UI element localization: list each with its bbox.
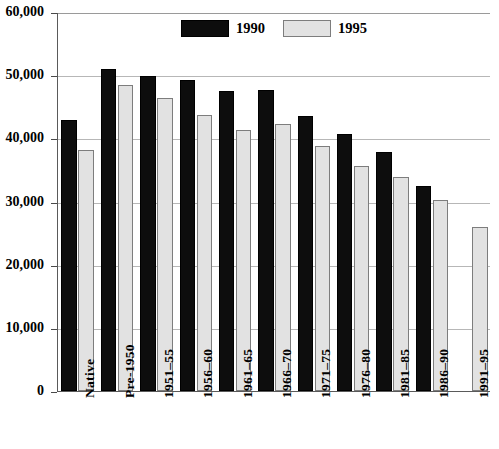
bar-1990-Native [61,120,77,391]
bar-1990-198185 [376,152,392,391]
bar-chart: 60,00050,00040,00030,00020,00010,0000 Na… [0,0,499,449]
bar-group [140,13,173,391]
x-axis-tick-label: 1961–65 [240,349,256,398]
x-axis-tick-label: 1991–95 [476,349,492,398]
bar-1990-197680 [337,134,353,391]
x-axis-tick-label: 1986–90 [436,349,452,398]
legend-item-1995: 1995 [283,20,367,37]
y-axis-tick-label: 40,000 [0,130,44,146]
bar-1990-197175 [298,116,314,391]
x-axis-tick-label: 1976–80 [358,349,374,398]
x-axis-tick-label: 1971–75 [318,349,334,398]
bar-group [258,13,291,391]
black-filled-swatch [181,20,229,37]
x-axis-tick-label: 1956–60 [200,349,216,398]
y-axis-tick-label: 0 [0,383,44,399]
x-axis-tick-label: Native [82,359,98,398]
light-gray-swatch [283,20,331,37]
x-axis-tick-label: Pre-1950 [122,344,138,398]
bar-group [455,13,488,391]
bar-1990-196165 [219,91,235,391]
x-axis-tick-label: 1951–55 [161,349,177,398]
chart-legend: 19901995 [181,20,367,37]
bar-1990-198690 [416,186,432,391]
bar-1995-Native [78,150,94,391]
y-axis-tick-mark [51,392,57,393]
y-axis-tick-label: 50,000 [0,67,44,83]
bar-group [101,13,134,391]
bar-group [219,13,252,391]
bar-1995-195155 [157,98,173,391]
bar-1990-195660 [180,80,196,391]
y-axis-tick-label: 60,000 [0,4,44,20]
plot-area [57,13,490,392]
bar-group [298,13,331,391]
y-axis-tick-label: 20,000 [0,257,44,273]
bar-1990-196670 [258,90,274,391]
x-axis-tick-label: 1981–85 [397,349,413,398]
bar-1990-195155 [140,76,156,391]
y-axis-tick-label: 30,000 [0,194,44,210]
bar-group [376,13,409,391]
legend-label: 1990 [236,20,265,37]
bar-group [61,13,94,391]
bar-1990-Pre1950 [101,69,117,391]
legend-label: 1995 [338,20,367,37]
legend-item-1990: 1990 [181,20,265,37]
bar-group [337,13,370,391]
bar-group [180,13,213,391]
x-axis-tick-label: 1966–70 [279,349,295,398]
y-axis-tick-label: 10,000 [0,320,44,336]
bar-group [416,13,449,391]
